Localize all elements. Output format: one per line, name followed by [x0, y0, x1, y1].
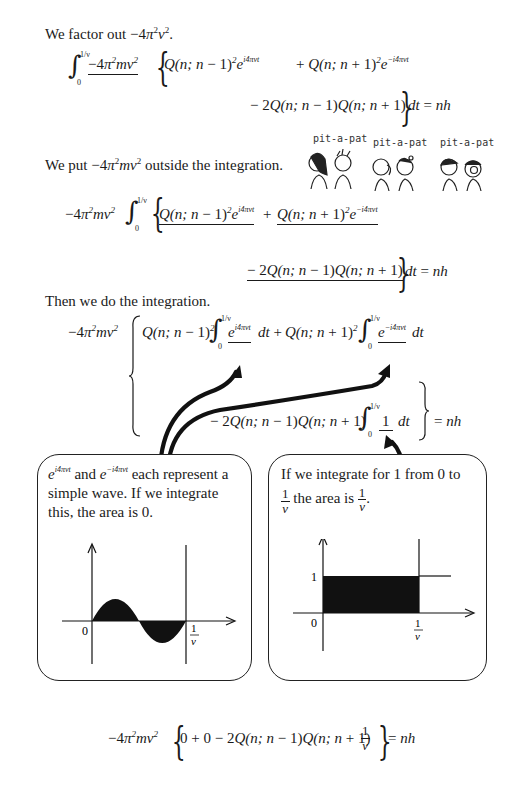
- final-factor: −4π2mν2: [108, 730, 158, 747]
- end-label-den: ν: [191, 635, 196, 647]
- final-fraction: 1ν: [361, 724, 370, 752]
- explanation-box-area: If we integrate for 1 from 0 to 1ν the a…: [268, 454, 487, 681]
- box-right-text: If we integrate for 1 from 0 to 1ν the a…: [281, 465, 486, 515]
- final-result: = nh: [388, 730, 415, 747]
- final-equation: −4π2mν2 { 0 + 0 − 2Q(n; n − 1)Q(n; n + 1…: [108, 718, 428, 762]
- origin-label: 0: [311, 616, 317, 630]
- end-label-den: ν: [415, 630, 420, 642]
- box-left-text: ei4πνt and e−i4πνt each represent a simp…: [48, 465, 248, 522]
- explanation-box-wave: ei4πνt and e−i4πνt each represent a simp…: [37, 454, 252, 681]
- end-label-num: 1: [415, 617, 421, 629]
- unit-area-graph: 1 0 1 ν: [279, 539, 479, 669]
- origin-label: 0: [82, 624, 88, 638]
- y-tick-label: 1: [311, 570, 317, 584]
- end-label-num: 1: [191, 622, 197, 634]
- sine-wave-graph: 0 1 ν: [48, 539, 248, 669]
- final-body: 0 + 0 − 2Q(n; n − 1)Q(n; n + 1): [180, 730, 371, 747]
